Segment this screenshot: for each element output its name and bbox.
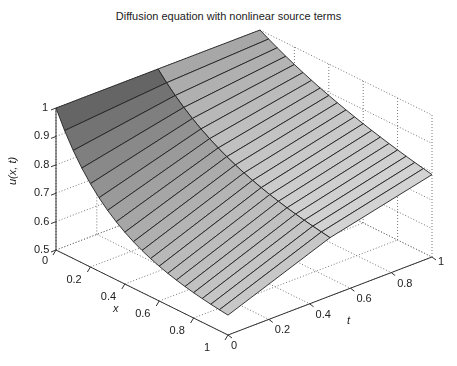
t-tick-label: 0.4 — [316, 308, 331, 320]
t-tick-label: 0.2 — [275, 323, 290, 335]
t-tick-label: 0.8 — [397, 277, 412, 289]
z-tick-label: 0.7 — [34, 186, 49, 198]
x-tick-label: 0 — [42, 254, 48, 266]
x-axis-label: x — [113, 302, 119, 314]
z-tick-label: 0.9 — [34, 129, 49, 141]
t-tick-label: 1 — [438, 255, 444, 267]
z-axis-label: u(x, t) — [6, 157, 18, 185]
z-tick-label: 1 — [42, 101, 48, 113]
x-tick-label: 0.6 — [135, 307, 150, 319]
x-tick-label: 0.4 — [101, 290, 116, 302]
t-tick-label: 0 — [231, 339, 237, 351]
x-tick-label: 1 — [204, 341, 210, 353]
x-tick-label: 0.2 — [66, 273, 81, 285]
surface-plot — [0, 0, 457, 366]
z-tick-label: 0.8 — [34, 158, 49, 170]
z-tick-label: 0.6 — [34, 215, 49, 227]
x-tick-label: 0.8 — [170, 324, 185, 336]
t-tick-label: 0.6 — [356, 292, 371, 304]
t-axis-label: t — [347, 314, 350, 326]
